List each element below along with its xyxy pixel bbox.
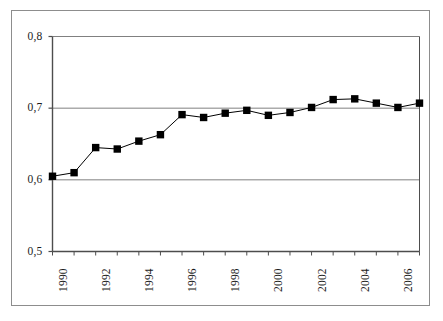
data-point-marker [157,131,164,138]
x-tick-label: 2000 [273,268,285,292]
x-tick-label: 2004 [360,268,372,292]
data-point-marker [135,137,142,144]
data-point-marker [394,104,401,111]
data-point-marker [49,173,56,180]
data-point-marker [373,99,380,106]
x-tick-label: 1990 [58,268,70,292]
data-point-marker [286,109,293,116]
plot-border [53,37,420,252]
data-point-marker [351,95,358,102]
x-tick-label: 2006 [403,268,415,292]
data-point-marker [329,96,336,103]
x-tick-label: 1998 [230,268,242,292]
y-tick-label: 0,6 [17,174,43,186]
gridlines-group [53,37,420,252]
series-line [53,99,420,176]
data-point-marker [178,111,185,118]
data-point-marker [70,169,77,176]
data-point-marker [92,144,99,151]
chart-figure: 0,50,60,70,8 199019921994199619982000200… [0,0,443,321]
x-tick-label: 1992 [101,268,113,292]
data-point-marker [222,109,229,116]
y-tick-label: 0,7 [17,102,43,114]
data-point-marker [308,104,315,111]
x-tick-label: 2002 [317,268,329,292]
data-point-marker [243,107,250,114]
x-tick-label: 1996 [187,268,199,292]
y-tick-label: 0,8 [17,31,43,43]
x-tick-label: 1994 [144,268,156,292]
y-tick-label: 0,5 [17,246,43,258]
data-point-marker [416,99,423,106]
data-point-marker [114,145,121,152]
data-point-marker [265,112,272,119]
data-point-marker [200,114,207,121]
